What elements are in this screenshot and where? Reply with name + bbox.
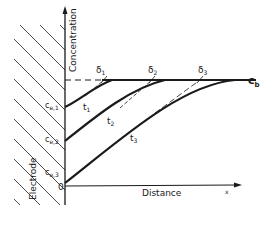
tangent-delta-3: [155, 80, 200, 113]
delta-2-label: δ2: [148, 65, 158, 76]
concentration-profile-diagram: Concentration Electrode Distance x 0 cb …: [0, 0, 274, 225]
t1-label: t1: [83, 102, 91, 113]
delta-1-label: δ1: [96, 65, 106, 76]
x-axis: [65, 185, 236, 186]
ce2-label: ce,2: [45, 135, 59, 145]
y-axis-label: Concentration: [68, 8, 78, 72]
x-axis-arrow-icon: [234, 183, 242, 188]
profile-curve-t3: [65, 80, 235, 183]
t2-label: t2: [107, 116, 115, 127]
profile-curve-t2: [65, 80, 165, 141]
bulk-label: cb: [248, 74, 260, 89]
profile-curve-t1: [65, 80, 112, 107]
x-symbol: x: [225, 188, 229, 195]
origin-label: 0: [58, 182, 64, 192]
x-axis-label: Distance: [142, 188, 182, 198]
ce3-label: ce,3: [45, 168, 59, 178]
t3-label: t3: [130, 133, 138, 144]
electrode-label: Electrode: [28, 157, 38, 200]
y-axis-arrow-icon: [63, 6, 68, 14]
delta-3-label: δ3: [198, 65, 208, 76]
tangent-delta-2: [120, 80, 152, 108]
